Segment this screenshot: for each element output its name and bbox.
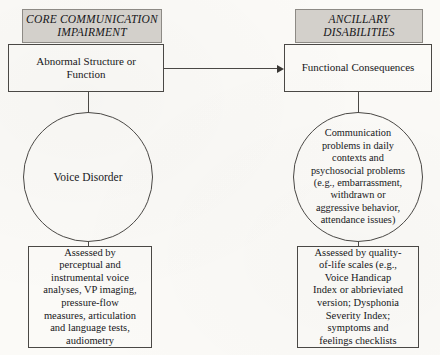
diagram-canvas: CORE COMMUNICATION IMPAIRMENT Abnormal S… [0,0,440,355]
box-abnormal-structure-or-function: Abnormal Structure or Function [8,44,164,92]
arrow-core-to-ancillary-head [277,65,284,73]
circle-voice-disorder-label: Voice Disorder [53,170,122,184]
arrow-core-to-ancillary-line [164,68,279,69]
box-functional-consequences: Functional Consequences [284,44,432,92]
header-tab-ancillary-label: ANCILLARY DISABILITIES [323,13,394,40]
box-core-assessment-label: Assessed by perceptual and instrumental … [38,247,141,348]
header-tab-ancillary-disabilities: ANCILLARY DISABILITIES [295,9,423,43]
circle-communication-problems-label: Communication problems in daily contexts… [311,127,405,226]
header-tab-core-communication-impairment: CORE COMMUNICATION IMPAIRMENT [22,9,162,43]
connector-ancillary-box-to-circle [358,92,359,113]
box-ancillary-assessment-label: Assessed by quality- of-life scales (e.g… [308,247,408,348]
circle-communication-problems: Communication problems in daily contexts… [293,112,423,242]
box-core-assessment-methods: Assessed by perceptual and instrumental … [28,246,152,348]
header-tab-core-label: CORE COMMUNICATION IMPAIRMENT [26,13,158,40]
box-abnormal-structure-label: Abnormal Structure or Function [31,55,141,82]
box-functional-consequences-label: Functional Consequences [297,61,420,75]
box-ancillary-assessment-methods: Assessed by quality- of-life scales (e.g… [297,246,419,348]
circle-voice-disorder: Voice Disorder [23,112,153,242]
connector-core-box-to-circle [88,92,89,113]
